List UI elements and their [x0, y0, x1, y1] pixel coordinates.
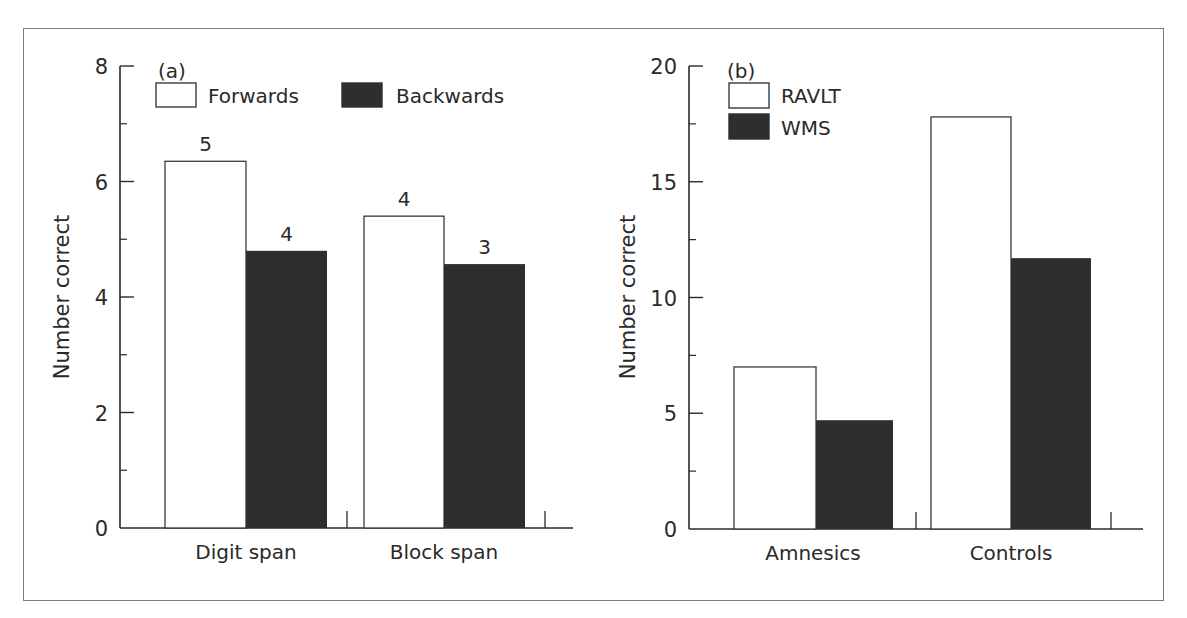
y-tick-label: 4 [95, 286, 108, 310]
y-tick-label: 10 [650, 287, 677, 311]
bar-backwards-block-span [444, 264, 525, 528]
x-category-label: Block span [390, 540, 499, 564]
bars-a: 5443 [165, 132, 525, 528]
legend-a: ForwardsBackwards [156, 83, 504, 108]
legend-label-forwards: Forwards [208, 84, 299, 108]
bars-b [734, 117, 1091, 529]
y-tick-label: 6 [95, 171, 108, 195]
bar-value-label: 3 [478, 235, 491, 259]
y-tick-label: 0 [95, 517, 108, 541]
y-axis-title-b: Number correct [616, 215, 640, 380]
bar-backwards-digit-span [246, 251, 327, 528]
x-category-label: Amnesics [765, 541, 861, 565]
y-tick-label: 15 [650, 171, 677, 195]
bar-value-label: 4 [398, 187, 411, 211]
chart-panel-a: Number correct (a) 02468Digit spanBlock … [50, 55, 573, 564]
y-tick-label: 20 [650, 55, 677, 79]
y-tick-label: 5 [664, 402, 677, 426]
bar-value-label: 5 [199, 132, 212, 156]
y-tick-label: 0 [664, 518, 677, 542]
legend-swatch-wms [729, 114, 769, 139]
legend-label-wms: WMS [781, 116, 831, 140]
legend-swatch-forwards [156, 83, 196, 107]
y-tick-label: 8 [95, 55, 108, 79]
bar-ravlt-amnesics [734, 367, 816, 529]
bar-wms-controls [1011, 258, 1091, 529]
x-category-label: Controls [970, 541, 1053, 565]
legend-label-backwards: Backwards [396, 84, 504, 108]
chart-panel-b: Number correct (b) 05101520AmnesicsContr… [616, 55, 1143, 565]
legend-swatch-backwards [342, 83, 382, 107]
legend-b: RAVLTWMS [729, 83, 842, 140]
y-axis-title-a: Number correct [50, 215, 74, 380]
legend-label-ravlt: RAVLT [781, 84, 842, 108]
bar-value-label: 4 [280, 222, 293, 246]
bar-forwards-digit-span [165, 161, 246, 528]
panel-label-b: (b) [727, 59, 755, 83]
bar-forwards-block-span [364, 216, 444, 528]
bar-ravlt-controls [931, 117, 1011, 529]
bar-wms-amnesics [816, 420, 893, 529]
x-category-label: Digit span [195, 540, 296, 564]
figure-canvas: Number correct (a) 02468Digit spanBlock … [0, 0, 1187, 618]
y-tick-label: 2 [95, 402, 108, 426]
legend-swatch-ravlt [729, 83, 769, 108]
panel-label-a: (a) [158, 59, 186, 83]
